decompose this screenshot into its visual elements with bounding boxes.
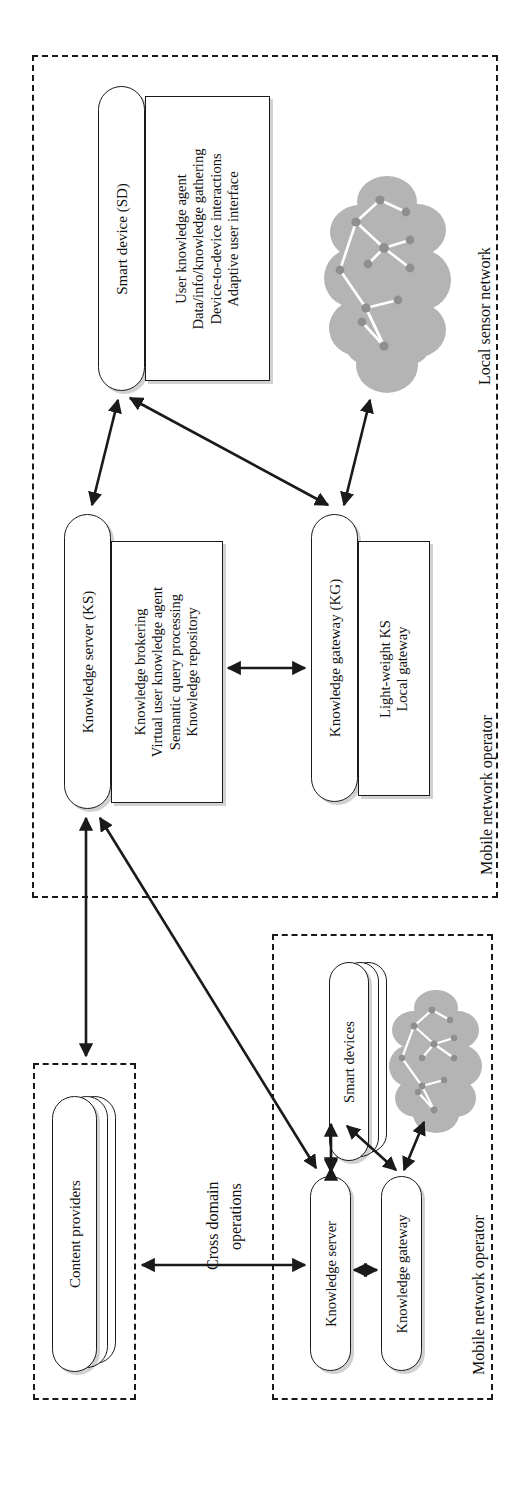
knowledge-gateway-title: Knowledge gateway (KG) (326, 579, 343, 737)
sd-feature-0: User knowledge agent (173, 148, 190, 329)
bottom-sensor-network-cloud (388, 980, 483, 1140)
smart-device-node[interactable]: Smart device (SD) (98, 86, 145, 391)
top-domain-label: Mobile network operator (478, 715, 496, 875)
sd-feature-2: Device-to-device interactions (208, 148, 225, 329)
bottom-knowledge-gateway-label: Knowledge gateway (393, 1214, 410, 1333)
ks-feature-0: Knowledge brokering (132, 587, 149, 757)
knowledge-server-feature-box: Knowledge brokering Virtual user knowled… (111, 541, 223, 803)
bottom-knowledge-server-label: Knowledge server (322, 1221, 339, 1327)
knowledge-gateway-feature-box: Light-weight KS Local gateway (358, 541, 430, 796)
figure-canvas: Smart device (SD) User knowledge agent D… (0, 0, 521, 1487)
knowledge-server-title: Knowledge server (KS) (79, 590, 96, 732)
ks-feature-1: Virtual user knowledge agent (150, 587, 167, 757)
ks-feature-3: Knowledge repository (184, 587, 201, 757)
sd-feature-3: Adaptive user interface (225, 148, 242, 329)
bottom-sensor-cloud-svg (388, 980, 483, 1140)
knowledge-gateway-feature-list: Light-weight KS Local gateway (377, 620, 412, 718)
cross-domain-operations-label-line1: Cross domain (204, 1182, 222, 1270)
smart-devices-label: Smart devices (341, 1021, 358, 1103)
ks-feature-2: Semantic query processing (167, 587, 184, 757)
local-sensor-network-cloud (322, 160, 452, 410)
cross-domain-operations-label-line2: operations (227, 1183, 245, 1250)
bottom-knowledge-server-node[interactable]: Knowledge server (310, 1176, 351, 1371)
knowledge-server-node[interactable]: Knowledge server (KS) (64, 514, 111, 809)
smart-device-feature-list: User knowledge agent Data/info/knowledge… (173, 148, 243, 329)
content-providers-label: Content providers (66, 1180, 83, 1288)
smart-device-feature-box: User knowledge agent Data/info/knowledge… (145, 96, 270, 381)
sd-feature-1: Data/info/knowledge gathering (190, 148, 207, 329)
bottom-knowledge-gateway-node[interactable]: Knowledge gateway (381, 1176, 422, 1371)
content-providers-node[interactable]: Content providers (52, 1096, 97, 1372)
local-sensor-network-label: Local sensor network (476, 247, 494, 385)
smart-devices-node[interactable]: Smart devices (329, 962, 369, 1161)
knowledge-gateway-node[interactable]: Knowledge gateway (KG) (311, 514, 358, 802)
kg-feature-1: Local gateway (394, 620, 411, 718)
bottom-domain-label: Mobile network operator (470, 1215, 488, 1375)
kg-feature-0: Light-weight KS (377, 620, 394, 718)
sensor-cloud-svg (322, 160, 452, 410)
smart-device-title: Smart device (SD) (113, 183, 130, 295)
knowledge-server-feature-list: Knowledge brokering Virtual user knowled… (132, 587, 202, 757)
